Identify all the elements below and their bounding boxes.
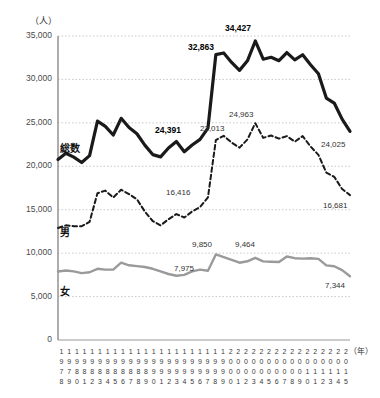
value-annotation: 32,863 (188, 42, 214, 52)
x-axis-year-label: 1983 (96, 347, 103, 393)
x-axis-year-label: 2002 (243, 347, 250, 393)
y-axis-tick-label: 15,000 (12, 204, 52, 214)
x-axis-year-label: 2007 (281, 347, 288, 393)
y-axis-tick-label: 20,000 (12, 160, 52, 170)
value-annotation: 24,963 (229, 110, 253, 119)
value-annotation: 7,344 (325, 281, 345, 290)
x-axis-year-label: 1997 (204, 347, 211, 393)
x-axis-year-label: 2015 (342, 347, 349, 393)
x-axis-year-label: 1987 (127, 347, 134, 393)
x-axis-year-label: 1985 (112, 347, 119, 393)
x-axis-year-label: 1991 (158, 347, 165, 393)
y-axis-tick-label: 25,000 (12, 117, 52, 127)
value-annotation: 34,427 (225, 23, 251, 33)
series-name-label: 総数 (60, 140, 80, 155)
chart-plot-area (0, 0, 380, 398)
x-axis-year-label: 1980 (73, 347, 80, 393)
x-axis-year-label: 1993 (173, 347, 180, 393)
x-axis-year-label: 1995 (189, 347, 196, 393)
value-annotation: 9,850 (192, 240, 212, 249)
x-axis-year-label: 2009 (296, 347, 303, 393)
y-axis-tick-label: 10,000 (12, 247, 52, 257)
value-annotation: 9,464 (235, 240, 255, 249)
x-axis-year-label: 1994 (181, 347, 188, 393)
series-line-総数 (58, 41, 350, 163)
x-axis-year-label: 1982 (89, 347, 96, 393)
x-axis-year-label: 1986 (120, 347, 127, 393)
x-axis-year-label: 1996 (196, 347, 203, 393)
value-annotation: 24,025 (321, 140, 345, 149)
x-axis-year-label: 2010 (304, 347, 311, 393)
x-axis-year-label: 2000 (227, 347, 234, 393)
series-name-label: 女 (60, 283, 70, 298)
y-axis-tick-label: 30,000 (12, 73, 52, 83)
value-annotation: 16,681 (323, 201, 347, 210)
x-axis-year-label: 1979 (66, 347, 73, 393)
value-annotation: 24,391 (155, 125, 181, 135)
x-axis-year-label: 2003 (250, 347, 257, 393)
x-axis-year-label: 2004 (258, 347, 265, 393)
x-axis-year-label: 2001 (235, 347, 242, 393)
x-axis-year-label: 2005 (266, 347, 273, 393)
x-axis-year-label: 2008 (289, 347, 296, 393)
x-axis-year-label: 1999 (219, 347, 226, 393)
y-axis-tick-label: 35,000 (12, 30, 52, 40)
series-line-女 (58, 254, 350, 276)
x-axis-year-label: 2014 (335, 347, 342, 393)
series-line-男 (58, 123, 350, 228)
x-axis-year-label: 2006 (273, 347, 280, 393)
x-axis-labels: 1978197919801981198219831984198519861987… (58, 347, 350, 393)
x-axis-year-label: 1992 (166, 347, 173, 393)
value-annotation: 7,975 (174, 264, 194, 273)
x-axis-year-label: 1998 (212, 347, 219, 393)
x-axis-year-label: 1984 (104, 347, 111, 393)
x-axis-year-label: 1978 (58, 347, 65, 393)
value-annotation: 23,013 (200, 124, 224, 133)
y-axis-tick-label: 5,000 (12, 291, 52, 301)
y-axis-tick-label: 0 (12, 334, 52, 344)
x-axis-year-label: 1989 (143, 347, 150, 393)
x-axis-year-label: 2013 (327, 347, 334, 393)
value-annotation: 16,416 (166, 188, 190, 197)
chart-container: （人） （年） 05,00010,00015,00020,00025,00030… (0, 0, 380, 398)
x-axis-year-label: 2012 (319, 347, 326, 393)
x-axis-year-label: 1981 (81, 347, 88, 393)
series-name-label: 男 (60, 224, 70, 239)
x-axis-year-label: 1988 (135, 347, 142, 393)
x-axis-year-label: 1990 (150, 347, 157, 393)
x-axis-year-label: 2011 (312, 347, 319, 393)
